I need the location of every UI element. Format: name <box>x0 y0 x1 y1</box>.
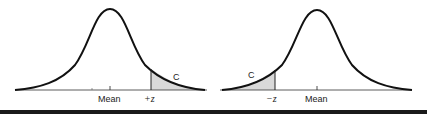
bottom-rule <box>0 110 427 114</box>
z-label-positive: +z <box>144 93 155 104</box>
normal-distribution-figure: C Mean +z C −z Mean <box>0 0 427 114</box>
mean-label: Mean <box>98 94 121 104</box>
diagram-canvas: C Mean +z C −z Mean <box>0 0 427 114</box>
panel-right-tail: C Mean +z <box>15 9 207 104</box>
area-label-c: C <box>173 72 180 82</box>
z-label-negative: −z <box>266 93 277 104</box>
panel-left-tail: C −z Mean <box>220 10 412 104</box>
area-label-c: C <box>248 70 255 80</box>
mean-label: Mean <box>305 94 328 104</box>
